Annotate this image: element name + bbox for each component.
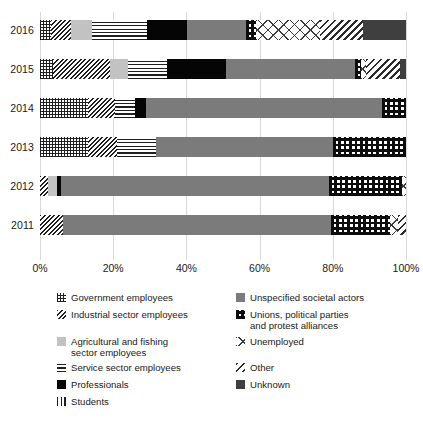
legend-item-students[interactable]: Students xyxy=(57,396,109,407)
bar-segment-unions xyxy=(382,98,406,118)
bar-track xyxy=(40,59,406,79)
y-axis-label-2011: 2011 xyxy=(11,219,34,231)
bar-row: 2016 xyxy=(40,20,406,40)
bar-segment-industrial xyxy=(53,59,110,79)
bar-segment-other xyxy=(366,59,400,79)
bar-segment-industrial xyxy=(88,137,117,157)
x-tick-label: 60% xyxy=(249,262,270,274)
legend-swatch-unions-icon xyxy=(236,310,245,319)
bar-row: 2012 xyxy=(40,176,406,196)
y-axis-label-2013: 2013 xyxy=(10,141,34,153)
legend: Government employeesIndustrial sector em… xyxy=(0,292,423,442)
legend-item-other[interactable]: Other xyxy=(236,362,274,373)
bar-segment-professionals xyxy=(167,59,226,79)
bar-track xyxy=(40,215,406,235)
bar-segment-unspecified xyxy=(63,215,331,235)
bar-segment-agricultural xyxy=(71,20,92,40)
bar-segment-industrial xyxy=(51,20,71,40)
legend-swatch-government-icon xyxy=(57,293,66,302)
legend-swatch-other-icon xyxy=(236,363,245,372)
legend-label-government: Government employees xyxy=(71,292,173,303)
bar-segment-service xyxy=(92,20,147,40)
bar-segment-unemployed xyxy=(402,176,406,196)
plot-area: 201620152014201320122011 xyxy=(40,12,406,260)
y-axis-label-2012: 2012 xyxy=(10,180,34,192)
bar-segment-unions xyxy=(329,176,402,196)
bar-segment-unions xyxy=(246,20,256,40)
bar-segment-unemployed xyxy=(390,215,398,235)
bar-track xyxy=(40,137,406,157)
legend-swatch-industrial-icon xyxy=(57,310,66,319)
legend-swatch-students-icon xyxy=(57,397,66,406)
x-tick-label: 40% xyxy=(176,262,197,274)
legend-label-industrial: Industrial sector employees xyxy=(71,309,188,320)
bar-row: 2011 xyxy=(40,215,406,235)
x-axis: 0%20%40%60%80%100% xyxy=(40,262,406,278)
y-axis-label-2015: 2015 xyxy=(10,63,34,75)
bar-segment-unspecified xyxy=(156,137,333,157)
bar-track xyxy=(40,176,406,196)
bar-track xyxy=(40,20,406,40)
bar-segment-unions xyxy=(331,215,390,235)
legend-swatch-unemployed-icon xyxy=(236,337,245,346)
legend-item-unions[interactable]: Unions, political parties and protest al… xyxy=(236,309,349,332)
bar-segment-unspecified xyxy=(146,98,382,118)
legend-label-unions: Unions, political parties and protest al… xyxy=(250,309,349,332)
legend-label-unknown: Unknown xyxy=(250,379,290,390)
legend-label-unspecified: Unspecified societal actors xyxy=(250,292,364,303)
legend-item-service[interactable]: Service sector employees xyxy=(57,362,181,373)
bar-segment-other xyxy=(398,215,406,235)
bar-row: 2015 xyxy=(40,59,406,79)
legend-item-government[interactable]: Government employees xyxy=(57,292,173,303)
x-tick-label: 0% xyxy=(32,262,47,274)
y-axis-label-2014: 2014 xyxy=(10,102,34,114)
legend-label-students: Students xyxy=(71,396,109,407)
legend-label-unemployed: Unemployed xyxy=(250,336,304,347)
legend-item-unknown[interactable]: Unknown xyxy=(236,379,290,390)
bar-segment-service xyxy=(115,98,135,118)
bar-segment-unknown xyxy=(363,20,406,40)
legend-label-agricultural: Agricultural and fishing sector employee… xyxy=(71,336,168,359)
bar-segment-unemployed xyxy=(256,20,320,40)
x-tick-label: 100% xyxy=(393,262,420,274)
bar-segment-unknown xyxy=(400,59,406,79)
legend-label-service: Service sector employees xyxy=(71,362,181,373)
bar-segment-unspecified xyxy=(61,176,329,196)
bar-row: 2013 xyxy=(40,137,406,157)
x-tick-label: 80% xyxy=(322,262,343,274)
bar-segment-unspecified xyxy=(187,20,246,40)
legend-swatch-unknown-icon xyxy=(236,380,245,389)
bar-segment-service xyxy=(117,137,156,157)
bar-segment-professionals xyxy=(135,98,146,118)
bar-segment-other xyxy=(320,20,363,40)
x-tick-label: 20% xyxy=(103,262,124,274)
bar-segment-government xyxy=(40,59,53,79)
bar-segment-agricultural xyxy=(48,176,57,196)
bar-segment-industrial xyxy=(40,176,48,196)
bar-row: 2014 xyxy=(40,98,406,118)
legend-swatch-professionals-icon xyxy=(57,380,66,389)
bar-segment-service xyxy=(128,59,167,79)
bar-segment-unions xyxy=(333,137,406,157)
legend-item-industrial[interactable]: Industrial sector employees xyxy=(57,309,188,320)
bar-segment-professionals xyxy=(147,20,187,40)
bar-segment-industrial xyxy=(88,98,115,118)
legend-label-other: Other xyxy=(250,362,274,373)
bar-segment-agricultural xyxy=(110,59,128,79)
stacked-bar-chart: 201620152014201320122011 0%20%40%60%80%1… xyxy=(0,0,423,447)
bar-segment-unspecified xyxy=(226,59,355,79)
bar-segment-government xyxy=(40,137,88,157)
bar-track xyxy=(40,98,406,118)
legend-item-unemployed[interactable]: Unemployed xyxy=(236,336,304,347)
legend-item-professionals[interactable]: Professionals xyxy=(57,379,129,390)
bar-segment-government xyxy=(40,98,88,118)
legend-item-unspecified[interactable]: Unspecified societal actors xyxy=(236,292,364,303)
y-axis-label-2016: 2016 xyxy=(10,24,34,36)
legend-swatch-service-icon xyxy=(57,363,66,372)
legend-item-agricultural[interactable]: Agricultural and fishing sector employee… xyxy=(57,336,168,359)
legend-swatch-agricultural-icon xyxy=(57,337,66,346)
gridline-100 xyxy=(406,12,407,260)
bar-segment-industrial xyxy=(40,215,63,235)
bar-segment-government xyxy=(40,20,51,40)
legend-label-professionals: Professionals xyxy=(71,379,129,390)
